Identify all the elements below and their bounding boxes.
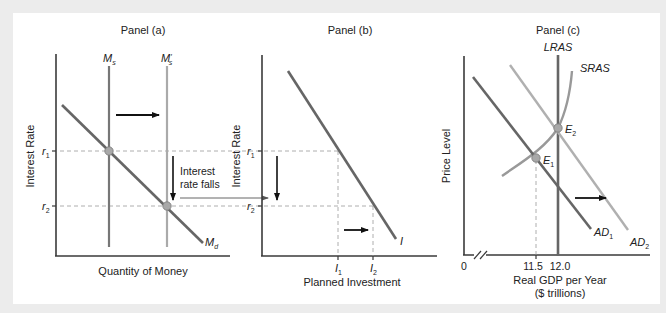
ad1-label: AD1	[593, 226, 613, 240]
panel-c-tick-11-5: 11.5	[523, 260, 543, 272]
panel-b: Panel (b) Interest Rate r1 r2 I I1 I2 Pl…	[230, 24, 437, 288]
panel-c-x-label-line2: ($ trillions)	[535, 287, 586, 299]
panel-b-tick-i1: I1	[335, 262, 342, 276]
rate-falls-annotation-line1: Interest	[180, 165, 215, 177]
equilibrium-point-r1	[105, 147, 113, 155]
panel-c-x-label-line1: Real GDP per Year	[513, 274, 607, 286]
panel-b-tick-i2: I2	[370, 262, 377, 276]
e2-label: E2	[565, 123, 576, 137]
ms-label: Ms	[103, 52, 116, 66]
investment-demand-curve	[288, 71, 396, 239]
ms-prime-label: M′s	[161, 52, 173, 66]
panel-b-title: Panel (b)	[328, 24, 373, 36]
panel-b-tick-r1: r1	[247, 145, 255, 159]
md-label: Md	[205, 236, 219, 250]
panel-c-origin: 0	[461, 260, 467, 272]
e1-label: E1	[543, 154, 554, 168]
panel-a-x-label: Quantity of Money	[98, 265, 188, 277]
panel-c-title: Panel (c)	[536, 24, 580, 36]
i-curve-label: I	[400, 235, 403, 247]
monetary-policy-diagram: Panel (a) Interest Rate r1 r2 Ms M′s Md …	[0, 0, 666, 313]
panel-b-tick-r2: r2	[247, 200, 255, 214]
ad2-label: AD2	[629, 236, 649, 250]
panel-b-y-label: Interest Rate	[230, 125, 242, 188]
panel-a-tick-r1: r1	[42, 145, 50, 159]
panel-a-y-label: Interest Rate	[24, 125, 36, 188]
rate-falls-annotation-line2: rate falls	[180, 178, 220, 190]
panel-a-title: Panel (a)	[121, 24, 166, 36]
panel-c-tick-12-0: 12.0	[550, 260, 571, 272]
panel-a-tick-r2: r2	[42, 200, 50, 214]
equilibrium-e2	[554, 124, 562, 132]
equilibrium-point-r2	[163, 202, 171, 210]
panel-c-y-label: Price Level	[440, 129, 452, 183]
lras-label: LRAS	[544, 41, 573, 53]
panel-c: Panel (c) Price Level LRAS SRAS AD2 AD1 …	[440, 24, 650, 299]
equilibrium-e1	[532, 154, 540, 162]
panel-b-x-label: Planned Investment	[303, 276, 400, 288]
sras-label: SRAS	[580, 62, 611, 74]
